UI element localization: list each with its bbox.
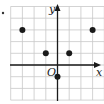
bullet-marker bbox=[2, 12, 4, 14]
data-point bbox=[43, 50, 49, 56]
data-point bbox=[19, 27, 25, 33]
y-axis-arrow-icon bbox=[55, 4, 61, 11]
data-point bbox=[90, 27, 96, 33]
data-point bbox=[55, 74, 61, 80]
coordinate-plane: x y O bbox=[0, 0, 104, 104]
data-point bbox=[66, 50, 72, 56]
y-axis-label: y bbox=[48, 3, 56, 16]
x-axis-label: x bbox=[96, 66, 103, 79]
